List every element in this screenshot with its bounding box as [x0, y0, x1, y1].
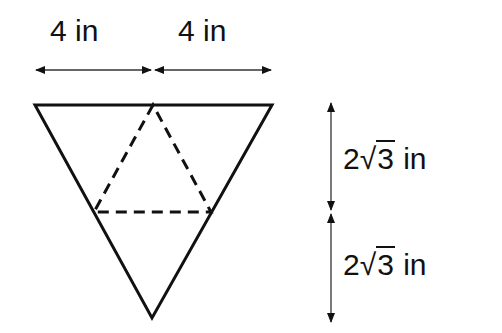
sqrt-symbol: √3 [360, 142, 395, 176]
label-side-lower: 2√3 in [343, 248, 427, 282]
coef: 2 [343, 142, 360, 175]
label-side-upper: 2√3 in [343, 142, 427, 176]
sqrt-symbol: √3 [360, 248, 395, 282]
unit: in [403, 142, 426, 175]
inner-dashed-triangle [94, 105, 211, 212]
coef: 2 [343, 248, 360, 281]
diagram-canvas: 4 in 4 in 2√3 in 2√3 in [0, 0, 502, 333]
diagram-svg [0, 0, 502, 333]
unit: in [403, 248, 426, 281]
label-top-left: 4 in [50, 14, 98, 48]
label-top-right: 4 in [178, 14, 226, 48]
